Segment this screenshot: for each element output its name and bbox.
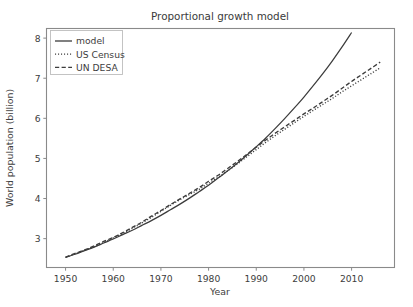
y-tick-label: 4 — [35, 193, 41, 204]
figure-canvas: 1950196019701980199020002010 345678 Prop… — [0, 0, 413, 307]
legend-label-us-census: US Census — [76, 49, 125, 60]
y-tick-label: 7 — [35, 73, 41, 84]
x-tick-label: 1960 — [102, 273, 126, 284]
x-tick-label: 1990 — [245, 273, 269, 284]
x-tick-label: 1950 — [54, 273, 78, 284]
x-tick-label: 1980 — [197, 273, 221, 284]
legend-label-un-desa: UN DESA — [76, 62, 118, 73]
x-tick-label: 2000 — [292, 273, 316, 284]
chart-legend[interactable]: modelUS CensusUN DESA — [51, 31, 125, 75]
x-tick-label: 2010 — [340, 273, 364, 284]
chart-svg: 1950196019701980199020002010 345678 Prop… — [0, 0, 413, 307]
legend-label-model: model — [76, 35, 105, 46]
y-tick-label: 6 — [35, 113, 41, 124]
y-tick-label: 3 — [35, 233, 41, 244]
y-tick-label: 8 — [35, 33, 41, 44]
x-tick-label: 1970 — [149, 273, 173, 284]
x-axis-label: Year — [209, 286, 230, 297]
chart-title: Proportional growth model — [151, 10, 289, 22]
y-axis-label: World population (billion) — [4, 89, 15, 207]
y-tick-label: 5 — [35, 153, 41, 164]
